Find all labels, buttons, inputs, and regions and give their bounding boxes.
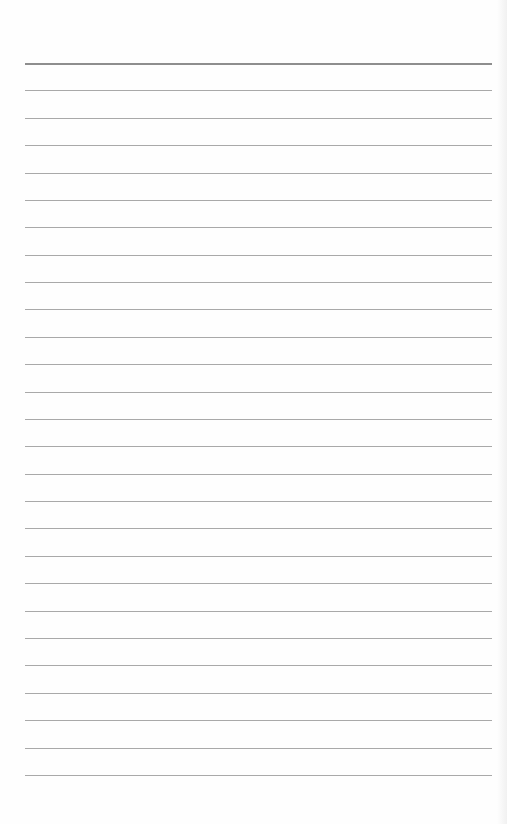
ruled-line <box>25 720 492 721</box>
ruled-line <box>25 364 492 365</box>
ruled-line <box>25 611 492 612</box>
ruled-line <box>25 583 492 584</box>
ruled-line <box>25 337 492 338</box>
ruled-line <box>25 775 492 776</box>
ruled-line <box>25 693 492 694</box>
ruled-line <box>25 255 492 256</box>
ruled-line <box>25 665 492 666</box>
ruled-line <box>25 200 492 201</box>
ruled-line <box>25 501 492 502</box>
ruled-line-top <box>25 63 492 65</box>
ruled-line <box>25 90 492 91</box>
ruled-line <box>25 145 492 146</box>
ruled-line <box>25 474 492 475</box>
ruled-line <box>25 118 492 119</box>
ruled-line <box>25 419 492 420</box>
ruled-line <box>25 748 492 749</box>
ruled-line <box>25 556 492 557</box>
ruled-line <box>25 173 492 174</box>
page-edge-shadow <box>497 0 507 824</box>
ruled-line <box>25 227 492 228</box>
notebook-page <box>0 0 507 824</box>
ruled-line <box>25 392 492 393</box>
ruled-line <box>25 446 492 447</box>
ruled-line <box>25 309 492 310</box>
ruled-line <box>25 282 492 283</box>
ruled-line <box>25 638 492 639</box>
ruled-line <box>25 528 492 529</box>
